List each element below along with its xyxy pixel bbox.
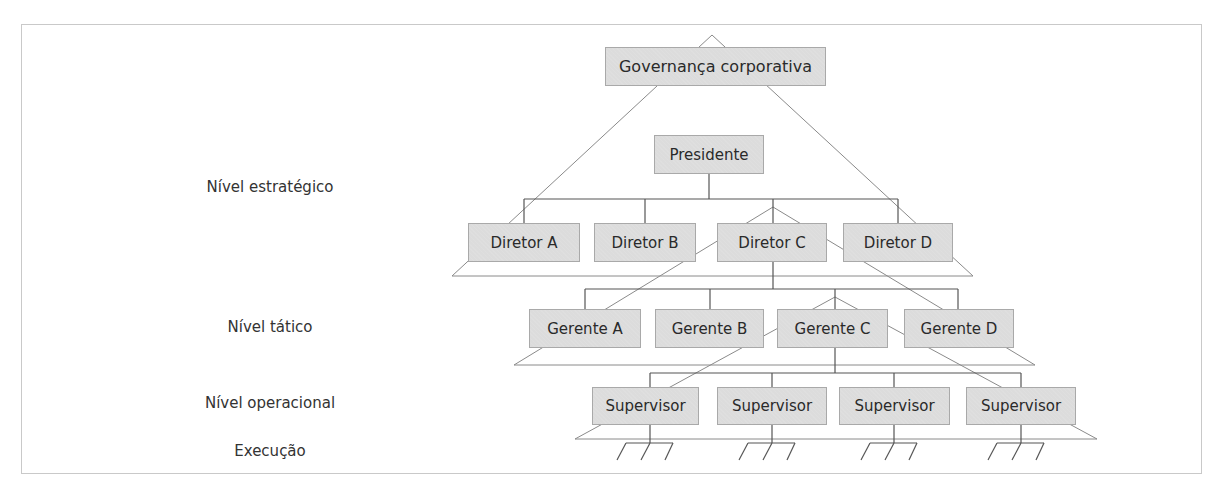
execution-mark-1 [617,443,673,460]
execution-mark-4 [988,443,1044,460]
supervisor-3-box: Supervisor [839,387,950,425]
manager-b-box: Gerente B [655,309,764,348]
level-label-tactical: Nível tático [228,318,313,336]
supervisor-1-box: Supervisor [592,387,699,425]
supervisor-4-box: Supervisor [966,387,1076,425]
manager-c-box: Gerente C [777,309,888,348]
level-label-operational: Nível operacional [205,394,335,412]
director-b-box: Diretor B [594,223,696,262]
execution-mark-2 [739,443,795,460]
org-pyramid-diagram: Nível estratégico Nível tático Nível ope… [0,0,1216,488]
level-label-execution: Execução [234,442,306,460]
president-box: Presidente [654,135,764,174]
manager-a-box: Gerente A [529,309,641,348]
execution-mark-3 [861,443,917,460]
governance-box: Governança corporativa [605,47,826,86]
director-d-box: Diretor D [843,223,953,262]
level-label-strategic: Nível estratégico [207,178,334,196]
director-a-box: Diretor A [468,223,580,262]
director-c-box: Diretor C [717,223,827,262]
execution-marks [617,443,1044,460]
supervisor-2-box: Supervisor [717,387,827,425]
manager-d-box: Gerente D [904,309,1014,348]
